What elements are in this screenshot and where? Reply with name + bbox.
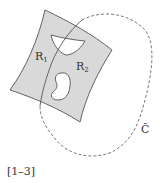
diagram-canvas: R1 R2 C̃ [1–3] — [0, 0, 160, 183]
label-c-tilde: C̃ — [141, 123, 149, 136]
surface-patch — [10, 10, 112, 122]
figure-caption: [1–3] — [7, 165, 35, 178]
